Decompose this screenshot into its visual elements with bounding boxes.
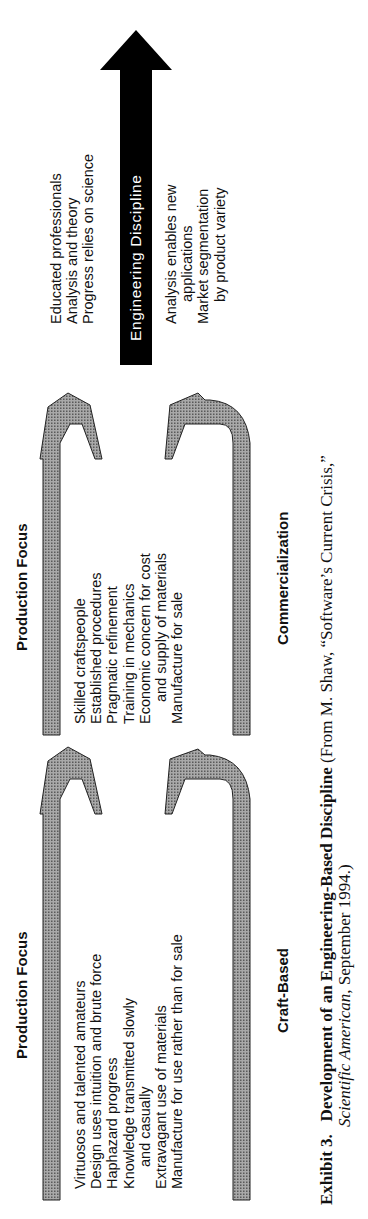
- list-item: Analysis and theory: [64, 154, 80, 324]
- craft-list: Virtuosos and talented amateurs Design u…: [72, 934, 185, 1189]
- commercial-heading: Production Focus: [13, 524, 30, 652]
- engineering-list-above: Educated professionals Analysis and theo…: [48, 154, 97, 324]
- list-item: Educated professionals: [48, 154, 64, 324]
- craft-heading: Production Focus: [13, 932, 30, 1060]
- caption-source: (From M. Shaw, “Software’s Current Crisi…: [317, 455, 336, 767]
- craft-label: Craft-Based: [274, 948, 291, 1033]
- figure-caption: Exhibit 3. Development of an Engineering…: [318, 455, 354, 1205]
- list-item: and supply of materials: [153, 553, 169, 724]
- list-item: Design uses intuition and brute force: [88, 934, 104, 1189]
- list-item: Analysis enables new: [163, 185, 179, 324]
- list-item: Knowledge transmitted slowly: [121, 934, 137, 1189]
- list-item: applications: [179, 185, 195, 324]
- list-item: Pragmatic refinement: [104, 553, 120, 724]
- list-item: Haphazard progress: [104, 934, 120, 1189]
- list-item: Progress relies on science: [80, 154, 96, 324]
- engineering-list-below: Analysis enables new applications Market…: [163, 185, 228, 324]
- commercial-list: Skilled craftspeople Established procedu…: [72, 553, 185, 724]
- engineering-arrow-label: Engineering Discipline: [127, 174, 145, 341]
- list-item: Manufacture for sale: [169, 553, 185, 724]
- caption-date: , September 1994.): [335, 864, 354, 993]
- list-item: by product variety: [212, 185, 228, 324]
- diagram-canvas: Production Focus Virtuosos and talented …: [0, 0, 368, 1219]
- caption-journal: Scientific American: [335, 994, 354, 1127]
- list-item: Established procedures: [88, 553, 104, 724]
- list-item: Economic concern for cost: [137, 553, 153, 724]
- caption-line-2: Scientific American, September 1994.): [336, 455, 354, 1205]
- caption-title: Development of an Engineering-Based Disc…: [317, 767, 336, 1121]
- caption-number: Exhibit 3.: [317, 1134, 336, 1205]
- list-item: Virtuosos and talented amateurs: [72, 934, 88, 1189]
- caption-line-1: Exhibit 3. Development of an Engineering…: [318, 455, 336, 1205]
- commercial-label: Commercialization: [274, 512, 291, 645]
- list-item: Market segmentation: [195, 185, 211, 324]
- list-item: Training in mechanics: [121, 553, 137, 724]
- list-item: Extravagant use of materials: [153, 934, 169, 1189]
- list-item: Skilled craftspeople: [72, 553, 88, 724]
- list-item: Manufacture for use rather than for sale: [169, 934, 185, 1189]
- list-item: and casually: [137, 934, 153, 1189]
